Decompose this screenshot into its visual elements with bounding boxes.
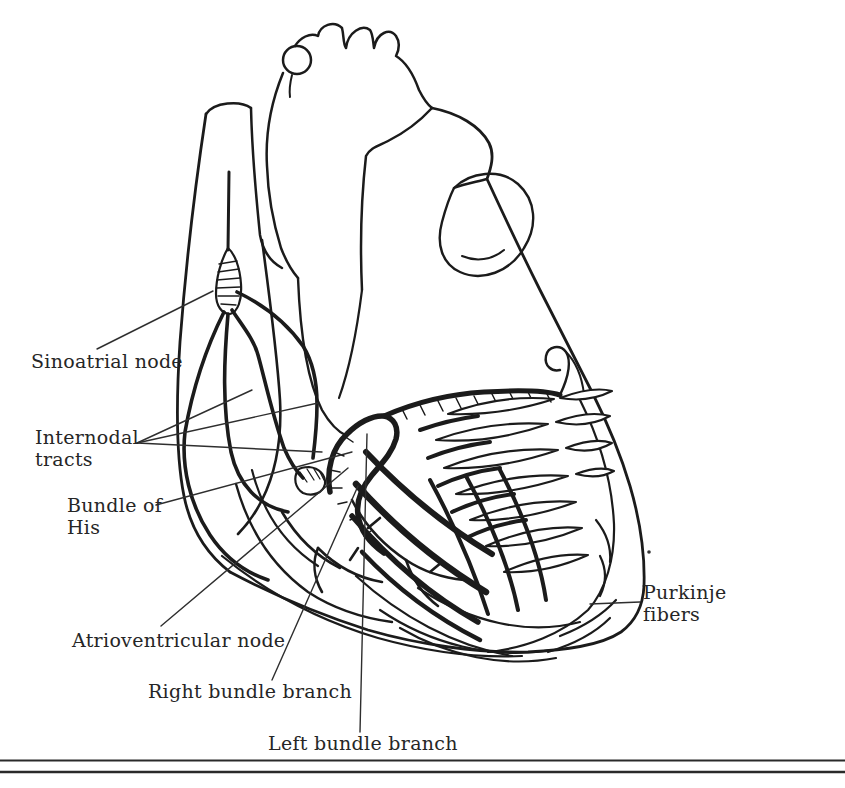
right-atrium-curves bbox=[222, 240, 522, 656]
label-bundle-of-his: Bundle of His bbox=[67, 494, 162, 538]
leader-left-bundle bbox=[360, 434, 367, 732]
label-purkinje-fibers: Purkinje fibers bbox=[643, 581, 726, 625]
leader-internodal-1 bbox=[137, 390, 252, 443]
heart-diagram-svg bbox=[0, 0, 845, 788]
label-left-bundle-branch: Left bundle branch bbox=[268, 732, 458, 754]
heart-conduction-figure: Sinoatrial node Internodal tracts Bundle… bbox=[0, 0, 845, 788]
leader-purkinje bbox=[590, 602, 640, 604]
leader-sinoatrial bbox=[97, 291, 213, 349]
label-right-bundle-branch: Right bundle branch bbox=[148, 680, 352, 702]
internodal-tracts bbox=[184, 292, 317, 580]
print-speck bbox=[647, 550, 651, 554]
inner-wall bbox=[488, 400, 614, 652]
great-vessels bbox=[206, 24, 533, 436]
sa-node bbox=[216, 248, 241, 314]
vessel-ring bbox=[283, 46, 311, 74]
bottom-rules bbox=[0, 761, 845, 773]
label-sinoatrial-node: Sinoatrial node bbox=[31, 350, 183, 372]
label-atrioventricular-node: Atrioventricular node bbox=[72, 629, 285, 651]
cavity-curl bbox=[546, 347, 569, 395]
label-internodal-tracts: Internodal tracts bbox=[35, 426, 139, 470]
